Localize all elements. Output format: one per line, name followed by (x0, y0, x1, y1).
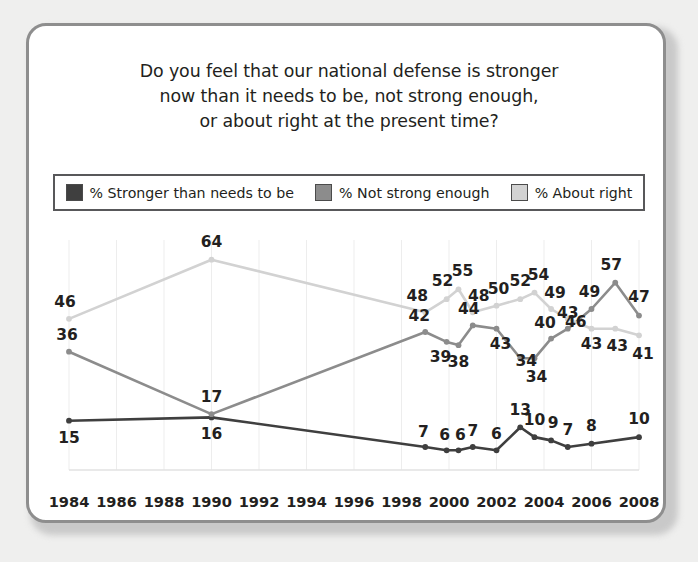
legend-label-not-strong-enough: % Not strong enough (339, 185, 489, 201)
svg-text:1994: 1994 (286, 493, 327, 510)
svg-text:1998: 1998 (381, 493, 422, 510)
svg-text:2006: 2006 (571, 493, 612, 510)
svg-text:6: 6 (439, 426, 450, 444)
legend-item-stronger: % Stronger than needs to be (66, 184, 294, 201)
svg-text:7: 7 (467, 422, 478, 440)
svg-text:2004: 2004 (524, 493, 565, 510)
svg-text:41: 41 (632, 345, 654, 363)
svg-text:6: 6 (491, 425, 502, 443)
chart-title-line-2: now than it needs to be, not strong enou… (29, 84, 669, 109)
legend-label-about-right: % About right (535, 185, 633, 201)
svg-text:55: 55 (452, 262, 474, 280)
svg-text:7: 7 (418, 423, 429, 441)
svg-text:1988: 1988 (144, 493, 185, 510)
svg-text:10: 10 (524, 411, 546, 429)
svg-text:10: 10 (628, 410, 650, 428)
svg-text:16: 16 (201, 425, 223, 443)
chart-title: Do you feel that our national defense is… (29, 59, 669, 134)
gridlines (69, 240, 639, 470)
svg-text:2002: 2002 (476, 493, 517, 510)
svg-text:52: 52 (432, 272, 454, 290)
svg-text:38: 38 (448, 353, 470, 371)
svg-text:43: 43 (581, 335, 603, 353)
svg-text:48: 48 (468, 287, 490, 305)
svg-text:40: 40 (534, 314, 556, 332)
svg-text:49: 49 (544, 284, 566, 302)
svg-text:1996: 1996 (334, 493, 375, 510)
svg-text:64: 64 (201, 233, 223, 251)
svg-text:43: 43 (490, 335, 512, 353)
svg-text:46: 46 (54, 293, 76, 311)
chart-title-line-1: Do you feel that our national defense is… (29, 59, 669, 84)
svg-text:17: 17 (201, 388, 223, 406)
svg-text:34: 34 (526, 368, 548, 386)
svg-text:36: 36 (56, 326, 78, 344)
svg-text:1986: 1986 (96, 493, 137, 510)
chart-title-line-3: or about right at the present time? (29, 109, 669, 134)
svg-text:2008: 2008 (619, 493, 660, 510)
svg-text:6: 6 (455, 426, 466, 444)
svg-text:57: 57 (601, 256, 623, 274)
svg-text:42: 42 (409, 307, 431, 325)
svg-text:2000: 2000 (429, 493, 470, 510)
svg-text:47: 47 (628, 288, 650, 306)
legend-item-about-right: % About right (511, 184, 633, 201)
legend-item-not-strong-enough: % Not strong enough (315, 184, 489, 201)
svg-text:54: 54 (528, 266, 550, 284)
legend-label-stronger: % Stronger than needs to be (90, 185, 294, 201)
line-chart-svg: 1516766761310978103617423938444334344043… (29, 222, 669, 526)
svg-text:1992: 1992 (239, 493, 280, 510)
svg-text:49: 49 (579, 283, 601, 301)
svg-text:9: 9 (548, 414, 559, 432)
svg-text:48: 48 (407, 287, 429, 305)
svg-text:1984: 1984 (49, 493, 90, 510)
svg-text:1990: 1990 (191, 493, 232, 510)
svg-text:50: 50 (488, 280, 510, 298)
svg-text:15: 15 (58, 429, 80, 447)
svg-text:46: 46 (565, 313, 587, 331)
chart-legend: % Stronger than needs to be % Not strong… (53, 174, 645, 211)
x-axis-labels: 1984198619881990199219941996199820002002… (49, 493, 660, 510)
legend-swatch-about-right (511, 184, 528, 201)
svg-text:7: 7 (562, 421, 573, 439)
legend-swatch-not-strong-enough (315, 184, 332, 201)
chart-card: Do you feel that our national defense is… (26, 23, 666, 523)
legend-swatch-stronger (66, 184, 83, 201)
chart-plot-area: 1516766761310978103617423938444334344043… (29, 222, 669, 526)
svg-text:43: 43 (607, 337, 629, 355)
svg-text:8: 8 (586, 417, 597, 435)
